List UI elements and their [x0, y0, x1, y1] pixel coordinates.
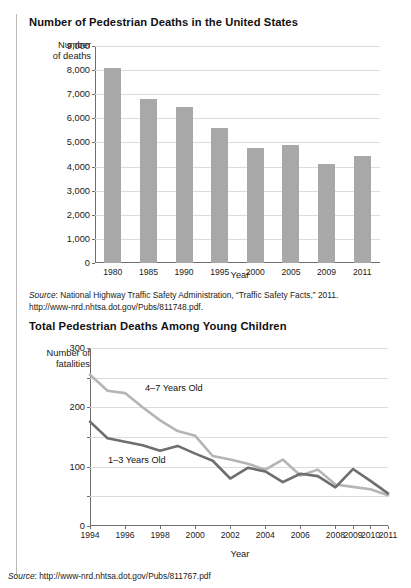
bar-chart-y-tick-label: 5,000 [67, 137, 90, 147]
figure-page: Number of Pedestrian Deaths in the Unite… [0, 0, 411, 588]
line-chart-x-tick-mark [300, 526, 301, 529]
bar [140, 99, 157, 263]
line-chart-x-tick-label: 2010 [361, 530, 380, 540]
line-chart-y-tick-label: 100 [69, 462, 85, 472]
figure1-source-url: http://www-nrd.nhtsa.dot.gov/Pubs/811748… [29, 302, 203, 312]
series-line-older [90, 375, 388, 495]
bar-chart-y-tick-label: 8,000 [67, 65, 90, 75]
bar-chart-y-tick-label: 1,000 [67, 234, 90, 244]
bar-chart-gridline [95, 167, 380, 168]
bar [211, 128, 228, 263]
line-chart-x-tick-label: 2004 [256, 530, 275, 540]
figure2-y-axis-title-line2: fatalities [20, 359, 90, 370]
line-chart-x-tick-label: 2009 [343, 530, 362, 540]
line-chart-x-tick-mark [335, 526, 336, 529]
bar-chart-y-tick-label: 2,000 [67, 210, 90, 220]
line-chart-x-tick-label: 1994 [80, 530, 99, 540]
line-chart-x-tick-mark [388, 526, 389, 529]
bar-chart-y-tick-label: 7,000 [67, 89, 90, 99]
line-chart-x-tick-label: 2006 [291, 530, 310, 540]
bar [247, 148, 264, 263]
line-chart-x-tick-label: 1998 [151, 530, 170, 540]
bar-chart-gridline [95, 94, 380, 95]
bar-chart-y-tick-mark [92, 239, 95, 240]
figure2-title: Total Pedestrian Deaths Among Young Chil… [29, 320, 287, 332]
bar-chart-gridline [95, 239, 380, 240]
bar-chart-y-tick-label: 9,000 [67, 41, 90, 51]
bar-chart-y-tick-label: 3,000 [67, 186, 90, 196]
series-label-younger: 1–3 Years Old [108, 455, 166, 465]
bar-chart-y-tick-mark [92, 167, 95, 168]
bar-chart-gridline [95, 118, 380, 119]
line-chart-series-layer [90, 348, 388, 526]
bar-chart-y-tick-mark [92, 263, 95, 264]
bar-chart-y-tick-mark [92, 191, 95, 192]
page-left-rule [16, 14, 17, 576]
line-chart-x-tick-mark [353, 526, 354, 529]
line-chart-x-tick-label: 2011 [379, 530, 397, 540]
figure2-source-text: : http://www-nrd.nhtsa.dot.gov/Pubs/8117… [35, 571, 211, 581]
bar [176, 107, 193, 263]
bar-chart-x-axis [95, 262, 380, 263]
line-chart-x-tick-label: 2008 [326, 530, 345, 540]
line-chart-x-tick-mark [230, 526, 231, 529]
line-chart-x-tick-mark [90, 526, 91, 529]
figure1-source-text: : National Highway Traffic Safety Admini… [56, 290, 339, 300]
line-chart-x-tick-mark [125, 526, 126, 529]
bar-chart-gridline [95, 191, 380, 192]
bar [282, 145, 299, 263]
figure1-title: Number of Pedestrian Deaths in the Unite… [29, 16, 298, 28]
figure1-y-axis-title-line2: of deaths [33, 51, 91, 62]
bar-chart-gridline [95, 142, 380, 143]
bar-chart-y-tick-mark [92, 46, 95, 47]
bar-chart-y-tick-label: 6,000 [67, 113, 90, 123]
line-chart-x-tick-mark [370, 526, 371, 529]
bar-chart-y-tick-mark [92, 215, 95, 216]
line-chart-plot-area: 0100200300199419961998200020022004200620… [90, 348, 388, 526]
bar-chart-y-axis [95, 46, 96, 263]
figure2-x-axis-title: Year [90, 549, 390, 559]
bar-chart-y-tick-mark [92, 142, 95, 143]
line-chart-x-tick-mark [160, 526, 161, 529]
bar-chart-gridline [95, 70, 380, 71]
figure1-source: Source: National Highway Traffic Safety … [29, 290, 338, 313]
line-chart-x-tick-mark [195, 526, 196, 529]
line-chart-y-tick-label: 300 [69, 343, 85, 353]
bar [354, 156, 371, 263]
bar-chart-plot-area: 01,0002,0003,0004,0005,0006,0007,0008,00… [95, 46, 380, 263]
bar-chart-y-tick-mark [92, 94, 95, 95]
figure2-source: Source: http://www-nrd.nhtsa.dot.gov/Pub… [8, 571, 211, 583]
line-chart-y-tick-label: 200 [69, 402, 85, 412]
bar-chart-y-tick-label: 0 [85, 258, 90, 268]
line-chart-x-tick-label: 2000 [186, 530, 205, 540]
bar-chart-y-tick-mark [92, 70, 95, 71]
line-chart-x-tick-mark [265, 526, 266, 529]
figure1-source-prefix: Source [29, 290, 56, 300]
line-chart-x-tick-label: 1996 [115, 530, 134, 540]
series-label-older: 4–7 Years Old [145, 383, 203, 393]
bar-chart-gridline [95, 46, 380, 47]
bar-chart-gridline [95, 215, 380, 216]
bar [104, 68, 121, 263]
figure2-source-prefix: Source [8, 571, 35, 581]
line-chart-x-tick-label: 2002 [221, 530, 240, 540]
bar [318, 164, 335, 263]
bar-chart-y-tick-mark [92, 118, 95, 119]
bar-chart-y-tick-label: 4,000 [67, 162, 90, 172]
figure1-x-axis-title: Year [95, 270, 385, 280]
